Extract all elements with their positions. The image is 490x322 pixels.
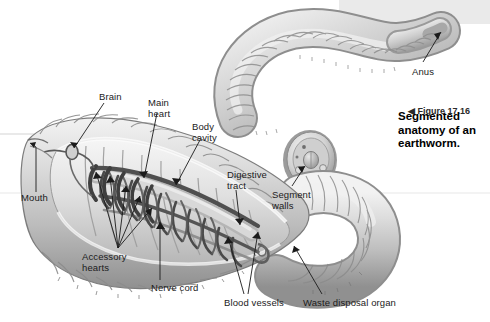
label-waste-disposal-organ: Waste disposal organ (303, 298, 396, 309)
earthworm-illustration (0, 0, 490, 322)
label-segment-walls: Segment walls (272, 190, 311, 211)
label-anus: Anus (412, 67, 434, 78)
label-nerve-cord: Nerve cord (151, 283, 198, 294)
label-mouth: Mouth (21, 193, 48, 204)
label-brain: Brain (99, 92, 122, 103)
figure-caption-text: Segmented anatomy of an earthworm. (398, 110, 490, 151)
label-blood-vessels: Blood vessels (224, 298, 284, 309)
label-accessory-hearts: Accessory hearts (82, 252, 127, 273)
label-main-heart: Main heart (148, 98, 170, 119)
label-digestive-tract: Digestive tract (227, 170, 267, 191)
label-body-cavity: Body cavity (192, 122, 217, 143)
earthworm-anatomy-figure: Brain Main heart Body cavity Digestive t… (0, 0, 490, 322)
